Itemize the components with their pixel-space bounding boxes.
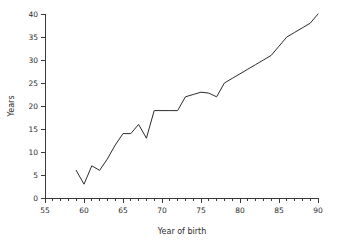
y-tick-label: 25 (28, 79, 38, 88)
y-tick-label: 40 (28, 10, 38, 19)
y-tick-label: 30 (28, 56, 38, 65)
data-series-line (76, 14, 318, 184)
x-tick-label: 55 (40, 206, 50, 215)
y-tick-label: 20 (28, 102, 38, 111)
y-tick-label: 35 (28, 33, 38, 42)
x-tick-label: 75 (196, 206, 206, 215)
x-axis-title: Year of birth (157, 227, 207, 236)
line-chart: 5560657075808590 0510152025303540 Year o… (0, 0, 343, 240)
x-tick-label: 85 (274, 206, 284, 215)
y-tick-label: 15 (28, 125, 38, 134)
y-tick-label: 10 (28, 148, 38, 157)
x-tick-label: 60 (79, 206, 89, 215)
x-tick-labels-group: 5560657075808590 (40, 206, 323, 215)
x-tick-label: 65 (118, 206, 128, 215)
axes-group (41, 14, 318, 203)
y-axis-title: Years (7, 95, 16, 117)
chart-figure: 5560657075808590 0510152025303540 Year o… (0, 0, 343, 240)
y-tick-label: 0 (33, 194, 38, 203)
x-tick-label: 90 (313, 206, 323, 215)
y-tick-labels-group: 0510152025303540 (28, 10, 38, 203)
x-tick-label: 70 (157, 206, 167, 215)
y-tick-label: 5 (33, 171, 38, 180)
x-tick-label: 80 (235, 206, 245, 215)
